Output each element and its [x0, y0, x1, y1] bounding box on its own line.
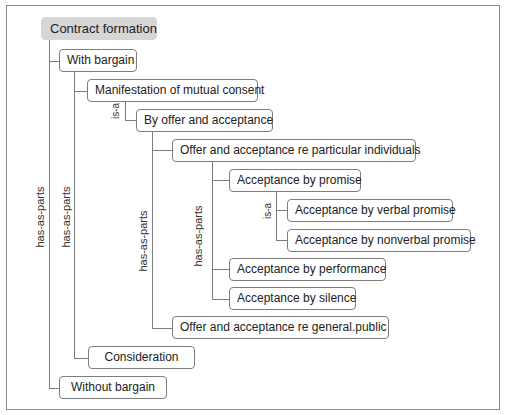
connector — [212, 180, 229, 181]
connector-manifestation-trunk — [125, 102, 126, 120]
connector — [276, 210, 287, 211]
connector — [49, 61, 59, 62]
node-offer-particular-individuals[interactable]: Offer and acceptance re particular indiv… — [172, 139, 416, 162]
node-acceptance-by-performance[interactable]: Acceptance by performance — [229, 258, 386, 281]
connector — [74, 91, 87, 92]
node-acceptance-by-verbal-promise[interactable]: Acceptance by verbal promise — [287, 199, 453, 222]
relation-label-with-bargain: has-as-parts — [60, 186, 72, 247]
connector-particular-trunk — [212, 162, 213, 299]
node-with-bargain[interactable]: With bargain — [59, 49, 137, 72]
connector — [152, 150, 172, 151]
node-offer-general-public[interactable]: Offer and acceptance re general.public — [172, 316, 389, 339]
connector — [212, 269, 229, 270]
node-acceptance-by-nonverbal-promise[interactable]: Acceptance by nonverbal promise — [287, 229, 471, 252]
connector-promise-trunk — [276, 192, 277, 240]
connector — [152, 328, 172, 329]
connector-root-trunk — [49, 40, 50, 388]
node-contract-formation[interactable]: Contract formation — [41, 17, 157, 40]
node-without-bargain[interactable]: Without bargain — [59, 376, 167, 399]
connector — [49, 388, 59, 389]
relation-label-promise: is-a — [262, 203, 273, 219]
connector — [276, 240, 287, 241]
relation-label-manifestation: is-a — [110, 103, 121, 119]
node-acceptance-by-promise[interactable]: Acceptance by promise — [229, 169, 361, 192]
node-acceptance-by-silence[interactable]: Acceptance by silence — [229, 287, 356, 310]
relation-label-by-offer: has-as-parts — [137, 210, 149, 271]
connector — [125, 120, 136, 121]
node-manifestation-of-mutual-consent[interactable]: Manifestation of mutual consent — [87, 79, 258, 102]
connector — [212, 299, 229, 300]
relation-label-particular: has-as-parts — [192, 205, 204, 266]
relation-label-root: has-as-parts — [34, 186, 46, 247]
connector-with-bargain-trunk — [74, 72, 75, 358]
node-consideration[interactable]: Consideration — [88, 346, 195, 369]
connector-by-offer-trunk — [152, 132, 153, 328]
node-by-offer-and-acceptance[interactable]: By offer and acceptance — [136, 109, 273, 132]
connector — [74, 358, 88, 359]
